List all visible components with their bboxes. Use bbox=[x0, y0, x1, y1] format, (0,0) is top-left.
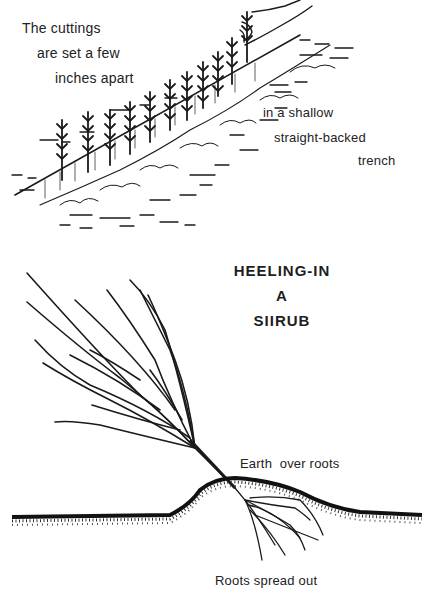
illustration-canvas bbox=[0, 0, 422, 594]
ground-mound bbox=[12, 478, 422, 525]
title-line2: A bbox=[222, 287, 342, 304]
earth-over-roots-label: Earth over roots bbox=[240, 456, 340, 471]
caption-cuttings-line3: inches apart bbox=[55, 70, 134, 86]
caption-cuttings-line2: are set a few bbox=[37, 45, 120, 61]
caption-trench-line1: in a shallow bbox=[263, 105, 333, 120]
roots-spread-out-label: Roots spread out bbox=[215, 573, 317, 588]
title-line3: SIIRUB bbox=[222, 312, 342, 329]
caption-trench-line2: straight-backed bbox=[274, 130, 366, 145]
title-line1: HEELING-IN bbox=[222, 262, 342, 279]
caption-cuttings-line1: The cuttings bbox=[22, 20, 101, 36]
caption-trench-line3: trench bbox=[358, 153, 395, 168]
